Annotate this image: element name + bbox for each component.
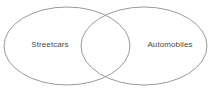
venn-diagram-svg: Streetcars Automobiles: [0, 0, 212, 89]
venn-label-right: Automobiles: [147, 40, 192, 49]
venn-diagram-canvas: bodies Streetcars Automobiles: [0, 0, 212, 89]
venn-label-left: Streetcars: [31, 40, 68, 49]
